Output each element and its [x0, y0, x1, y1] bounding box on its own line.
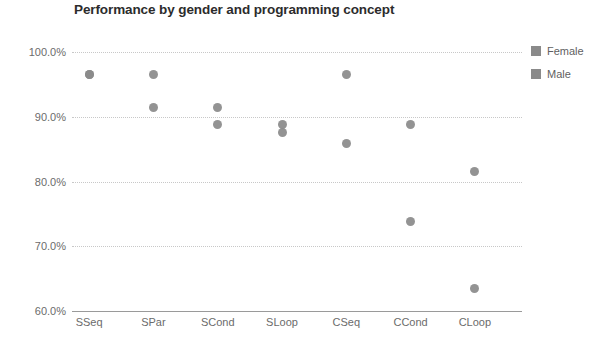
- data-point: [406, 217, 415, 226]
- x-tick-label: CLoop: [459, 316, 491, 328]
- x-tick-label: SSeq: [76, 316, 103, 328]
- data-point: [149, 103, 158, 112]
- chart-container: Performance by gender and programming co…: [0, 0, 606, 340]
- data-point: [470, 284, 479, 293]
- x-tick-label: SCond: [201, 316, 235, 328]
- data-point: [85, 70, 94, 79]
- y-tick-label: 70.0%: [4, 240, 66, 252]
- gridline: [72, 182, 522, 184]
- chart-title: Performance by gender and programming co…: [74, 2, 494, 17]
- y-tick-label: 60.0%: [4, 305, 66, 317]
- y-tick-label: 90.0%: [4, 111, 66, 123]
- data-point: [213, 120, 222, 129]
- x-tick-label: SLoop: [266, 316, 298, 328]
- data-point: [149, 70, 158, 79]
- legend-item[interactable]: Male: [531, 67, 606, 81]
- x-tick-label: CCond: [393, 316, 427, 328]
- data-point: [278, 128, 287, 137]
- x-tick-label: SPar: [141, 316, 165, 328]
- gridline: [72, 246, 522, 248]
- gridline: [72, 311, 522, 313]
- data-point: [213, 103, 222, 112]
- gridline: [72, 52, 522, 54]
- legend-item[interactable]: Female: [531, 44, 606, 58]
- data-point: [406, 120, 415, 129]
- chart-legend: FemaleMale: [531, 44, 606, 90]
- data-point: [470, 167, 479, 176]
- y-axis: 100.0%90.0%80.0%70.0%60.0%: [0, 52, 66, 311]
- x-axis: SSeqSParSCondSLoopCSeqCCondCLoop: [72, 316, 522, 338]
- legend-label: Male: [547, 68, 571, 80]
- y-tick-label: 100.0%: [4, 46, 66, 58]
- data-point: [342, 139, 351, 148]
- legend-label: Female: [547, 45, 584, 57]
- plot-area: [72, 52, 522, 311]
- data-point: [342, 70, 351, 79]
- x-tick-label: CSeq: [333, 316, 361, 328]
- legend-swatch-icon: [531, 69, 541, 79]
- legend-swatch-icon: [531, 46, 541, 56]
- y-tick-label: 80.0%: [4, 176, 66, 188]
- gridline: [72, 117, 522, 119]
